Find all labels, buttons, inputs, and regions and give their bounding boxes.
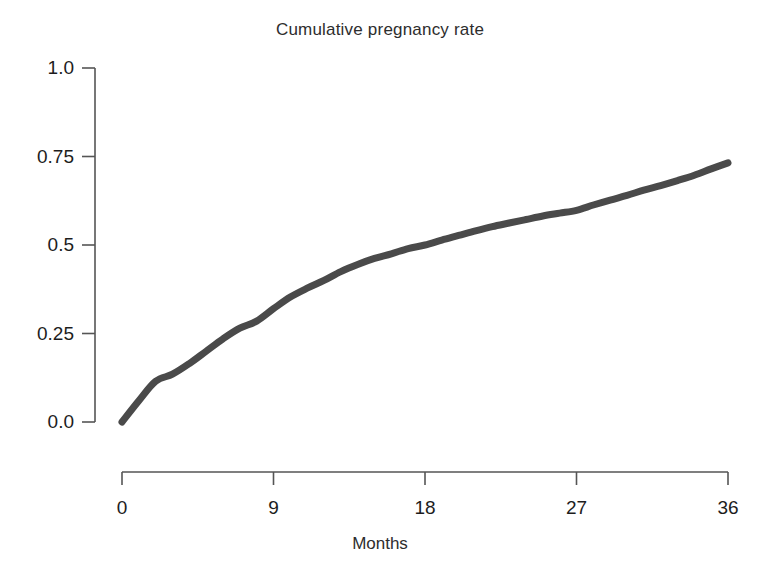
x-tick-marks: [122, 472, 728, 485]
x-axis: [122, 472, 728, 485]
data-series: [122, 163, 728, 422]
y-tick-label: 0.5: [0, 234, 74, 256]
series-line-cumulative-pregnancy-rate: [122, 163, 728, 422]
y-tick-label: 0.0: [0, 411, 74, 433]
x-axis-label: Months: [0, 534, 760, 554]
chart-figure: Cumulative pregnancy rate 0.00.250.50.75…: [0, 0, 760, 579]
y-axis: [82, 68, 95, 422]
x-tick-label: 0: [117, 497, 128, 519]
x-tick-label: 36: [717, 497, 738, 519]
plot-area: [0, 0, 760, 579]
x-tick-label: 27: [566, 497, 587, 519]
y-tick-label: 0.75: [0, 146, 74, 168]
x-tick-label: 18: [414, 497, 435, 519]
y-tick-label: 0.25: [0, 323, 74, 345]
x-tick-label: 9: [268, 497, 279, 519]
y-tick-marks: [82, 68, 95, 422]
y-tick-label: 1.0: [0, 57, 74, 79]
